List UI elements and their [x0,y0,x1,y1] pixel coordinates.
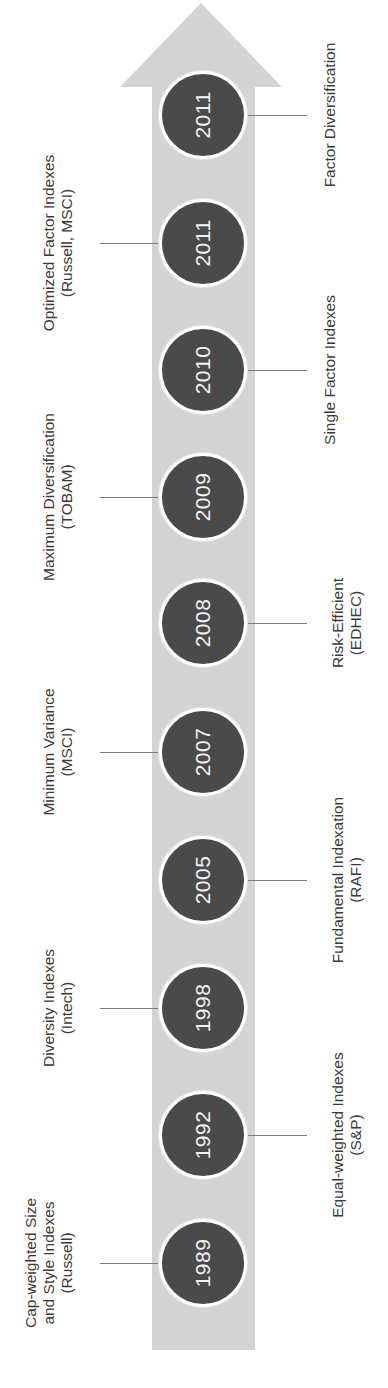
timeline-node-2007: 2007 [159,708,247,796]
event-label-2010: Single Factor Indexes [321,295,339,445]
timeline-node-2011-factor: 2011 [159,71,247,159]
connector-line [246,1135,307,1136]
connector-line [246,880,307,881]
timeline-node-2005: 2005 [159,836,247,924]
timeline-node-1989: 1989 [159,1219,247,1307]
node-year: 2007 [191,728,215,777]
timeline-diagram: 1989 Cap-weighted Size and Style Indexes… [0,0,388,1388]
node-year: 2011 [191,91,215,138]
connector-line [100,243,160,244]
node-year: 1998 [191,984,215,1033]
timeline-node-2010: 2010 [159,326,247,414]
timeline-node-1992: 1992 [159,1091,247,1179]
event-label-1989: Cap-weighted Size and Style Indexes (Rus… [22,1198,76,1328]
timeline-node-1998: 1998 [159,964,247,1052]
node-year: 2005 [191,856,215,905]
event-label-2011-factor: Factor Diversification [321,43,339,188]
event-label-2005: Fundamental Indexation (RAFI) [329,797,365,963]
connector-line [100,752,160,753]
connector-line [246,370,307,371]
event-label-2007: Minimum Variance (MSCI) [40,688,76,815]
connector-line [246,115,307,116]
node-year: 1992 [191,1111,215,1160]
timeline-node-2008: 2008 [159,579,247,667]
node-year: 2011 [191,219,215,266]
connector-line [100,1263,160,1264]
event-label-2009: Maximum Diversification (TOBAM) [40,413,76,581]
timeline-node-2011-optimized: 2011 [159,199,247,287]
event-label-2008: Risk-Efficient (EDHEC) [329,578,365,668]
connector-line [100,1008,160,1009]
connector-line [100,497,160,498]
node-year: 1989 [191,1239,215,1288]
event-label-1998: Diversity Indexes (Intech) [40,949,76,1067]
timeline-node-2009: 2009 [159,453,247,541]
node-year: 2009 [191,473,215,522]
event-label-2011-optimized: Optimized Factor Indexes (Russell, MSCI) [40,155,76,332]
node-year: 2010 [191,346,215,395]
node-year: 2008 [191,599,215,648]
connector-line [246,623,307,624]
event-label-1992: Equal-weighted Indexes (S&P) [329,1052,365,1217]
